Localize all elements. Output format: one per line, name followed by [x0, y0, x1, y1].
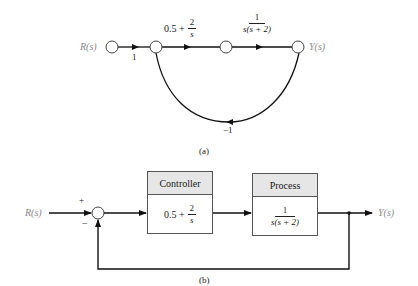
- controller-title: Controller: [148, 172, 212, 195]
- arrow-icon: [256, 44, 263, 50]
- process-block: Process 1 s(s + 2): [252, 173, 318, 236]
- gain-text: 0.5 +: [164, 23, 185, 34]
- tf-numerator: 2: [188, 204, 197, 215]
- node-2: [150, 41, 162, 53]
- diagram-canvas: [0, 0, 418, 286]
- arrow-icon: [184, 44, 191, 50]
- tf-denominator: s(s + 2): [271, 217, 299, 227]
- tf-text: 0.5 +: [164, 209, 185, 220]
- output-label-b: Y(s): [378, 208, 394, 218]
- caption-b: (b): [199, 276, 210, 285]
- gain-denominator: s(s + 2): [243, 24, 271, 34]
- minus-sign: −: [82, 219, 88, 229]
- controller-tf: 0.5 + 2 s: [148, 195, 212, 233]
- gain-fraction: 2 s: [188, 18, 197, 39]
- process-tf: 1 s(s + 2): [253, 197, 317, 235]
- feedback-branch: [156, 53, 299, 122]
- summing-junction: [92, 207, 104, 219]
- caption-a: (a): [199, 147, 209, 156]
- tf-denominator: s: [190, 215, 194, 225]
- plus-sign: +: [79, 196, 84, 205]
- tf-fraction: 2 s: [188, 204, 197, 225]
- gain-numerator: 1: [249, 13, 266, 24]
- output-label-a: Y(s): [309, 42, 325, 52]
- gain-denominator: s: [190, 29, 194, 39]
- tf-fraction: 1 s(s + 2): [271, 206, 299, 227]
- feedback-gain: −1: [223, 126, 233, 135]
- branch-gain-controller: 0.5 + 2 s: [164, 18, 196, 39]
- process-title: Process: [253, 174, 317, 197]
- tf-numerator: 1: [275, 206, 296, 217]
- input-label-a: R(s): [80, 42, 97, 52]
- controller-block: Controller 0.5 + 2 s: [147, 171, 213, 234]
- branch-gain-process: 1 s(s + 2): [243, 13, 271, 34]
- node-r: [106, 41, 118, 53]
- arrow-icon: [132, 44, 139, 50]
- node-3: [220, 41, 232, 53]
- input-label-b: R(s): [25, 208, 42, 218]
- gain-numerator: 2: [188, 18, 197, 29]
- branch-gain-1: 1: [132, 53, 137, 62]
- node-y: [292, 41, 304, 53]
